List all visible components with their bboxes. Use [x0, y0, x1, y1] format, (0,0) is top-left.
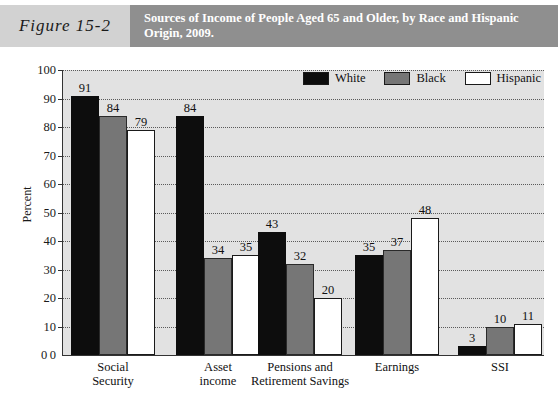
bar-value-label: 20 — [322, 283, 335, 298]
figure-number-label: Figure 15-2 — [19, 16, 111, 36]
bar-value-label: 3 — [469, 331, 475, 346]
y-axis-tick-mark — [58, 70, 63, 71]
bar-value-label: 37 — [391, 235, 404, 250]
figure-title: Sources of Income of People Aged 65 and … — [144, 11, 546, 41]
bar-group: 918479 — [71, 70, 155, 355]
legend-label: White — [335, 71, 366, 86]
y-axis-tick-label: 100 — [37, 63, 56, 78]
bar-value-label: 79 — [135, 115, 148, 130]
bar-value-label: 10 — [494, 312, 507, 327]
y-axis-tick-mark — [58, 99, 63, 100]
bar-group: 353748 — [355, 70, 439, 355]
bar[interactable]: 43 — [258, 232, 286, 355]
x-axis-tick-label: Assetincome — [200, 360, 237, 388]
y-axis-tick-label: 80 — [44, 120, 57, 135]
y-axis-tick-mark — [58, 184, 63, 185]
bar-value-label: 91 — [79, 81, 92, 96]
bar[interactable]: 91 — [71, 96, 99, 355]
y-axis-title: Percent — [20, 165, 35, 245]
bar[interactable]: 35 — [232, 255, 260, 355]
bar[interactable]: 11 — [514, 324, 542, 355]
chart-area: Percent 0102030405060708090100 918479843… — [0, 47, 558, 403]
y-axis-tick-mark — [58, 327, 63, 328]
y-axis-zero-label: 0 — [41, 348, 47, 363]
bar[interactable]: 32 — [286, 264, 314, 355]
figure-title-band: Sources of Income of People Aged 65 and … — [130, 5, 558, 47]
plot-area: 0102030405060708090100 91847984343543322… — [62, 70, 544, 356]
bar[interactable]: 79 — [127, 130, 155, 355]
bar-value-label: 48 — [419, 203, 432, 218]
x-axis-tick-label: Pensions andRetirement Savings — [251, 360, 349, 388]
y-axis-tick-label: 70 — [44, 148, 57, 163]
y-axis-tick-mark — [58, 213, 63, 214]
chart-legend: WhiteBlackHispanic — [303, 70, 541, 87]
y-axis-tick-label: 40 — [44, 234, 57, 249]
bar[interactable]: 84 — [99, 116, 127, 355]
bar[interactable]: 48 — [411, 218, 439, 355]
bar-value-label: 84 — [107, 101, 120, 116]
bar-value-label: 34 — [212, 243, 225, 258]
bar-value-label: 11 — [522, 309, 534, 324]
y-axis-tick-mark — [58, 156, 63, 157]
bar-group: 433220 — [258, 70, 342, 355]
bar[interactable]: 3 — [458, 346, 486, 355]
bar-value-label: 84 — [184, 101, 197, 116]
bar-value-label: 32 — [294, 249, 307, 264]
x-axis-tick-label: Earnings — [375, 360, 419, 374]
y-axis-tick-label: 20 — [44, 291, 57, 306]
bar-value-label: 43 — [266, 217, 279, 232]
bar[interactable]: 84 — [176, 116, 204, 355]
legend-entry[interactable]: Hispanic — [465, 71, 541, 86]
legend-label: Black — [416, 71, 445, 86]
legend-swatch-icon — [384, 72, 410, 85]
bar[interactable]: 34 — [204, 258, 232, 355]
y-axis-tick-mark — [58, 127, 63, 128]
bar-value-label: 35 — [240, 240, 253, 255]
legend-swatch-icon — [465, 72, 491, 85]
bar[interactable]: 35 — [355, 255, 383, 355]
y-axis-tick-label: 0 — [50, 348, 56, 363]
y-axis-tick-mark — [58, 241, 63, 242]
bar-value-label: 35 — [363, 240, 376, 255]
legend-entry[interactable]: Black — [384, 71, 445, 86]
y-axis-tick-label: 90 — [44, 91, 57, 106]
figure-number-band: Figure 15-2 — [0, 5, 130, 47]
x-axis-tick-label: SSI — [491, 360, 509, 374]
figure-header: Figure 15-2 Sources of Income of People … — [0, 5, 558, 47]
bar[interactable]: 10 — [486, 327, 514, 356]
y-axis-tick-mark — [58, 270, 63, 271]
y-axis-tick-label: 60 — [44, 177, 57, 192]
legend-entry[interactable]: White — [303, 71, 366, 86]
bar[interactable]: 37 — [383, 250, 411, 355]
x-axis-tick-label: SocialSecurity — [92, 360, 134, 388]
y-axis-tick-label: 50 — [44, 205, 57, 220]
bar-group: 843435 — [176, 70, 260, 355]
y-axis-tick-label: 10 — [44, 319, 57, 334]
legend-swatch-icon — [303, 72, 329, 85]
bar[interactable]: 20 — [314, 298, 342, 355]
y-axis-tick-mark — [58, 298, 63, 299]
legend-label: Hispanic — [497, 71, 541, 86]
bar-group: 31011 — [458, 70, 542, 355]
y-axis-tick-label: 30 — [44, 262, 57, 277]
